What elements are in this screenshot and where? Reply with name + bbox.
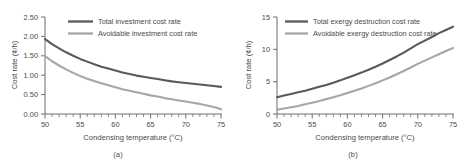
x-tick-label: 55 <box>76 120 84 129</box>
chart-a-legend: Total investment cost rate Avoidable inv… <box>68 17 197 38</box>
y-tick-label: 0.00 <box>24 110 38 119</box>
x-tick-label: 60 <box>111 120 119 129</box>
chart-b-y-ticks <box>273 17 277 114</box>
chart-b-svg: 0 5 10 15 <box>235 0 471 145</box>
y-tick-label: 0 <box>266 110 270 119</box>
x-tick-label: 55 <box>308 120 316 129</box>
chart-b-legend: Total exergy destruction cost rate Avoid… <box>285 17 437 38</box>
chart-a-x-ticks <box>45 114 221 119</box>
chart-b-x-tick-labels: 50 55 60 65 70 75 <box>273 120 457 129</box>
x-axis-title: Condensing temperature (°C) <box>315 133 415 142</box>
x-tick-label: 65 <box>146 120 154 129</box>
x-tick-label: 60 <box>343 120 351 129</box>
x-tick-label: 50 <box>41 120 49 129</box>
legend-label-avoidable-exergy-destruction-cost-rate: Avoidable exergy destruction cost rate <box>313 29 437 38</box>
x-tick-label: 65 <box>378 120 386 129</box>
chart-panel-a: 0.00 0.50 1.00 1.50 2.00 2.50 <box>0 0 236 162</box>
legend-label-total-investment-cost-rate: Total investment cost rate <box>98 17 181 26</box>
x-tick-label: 70 <box>414 120 422 129</box>
y-tick-label: 2.00 <box>24 32 38 41</box>
legend-label-total-exergy-destruction-cost-rate: Total exergy destruction cost rate <box>313 17 420 26</box>
chart-a-y-tick-labels: 0.00 0.50 1.00 1.50 2.00 2.50 <box>24 13 38 119</box>
y-axis-title: Cost rate (¢/h) <box>244 40 253 89</box>
chart-a-x-tick-labels: 50 55 60 65 70 75 <box>41 120 225 129</box>
x-axis-title: Condensing temperature (°C) <box>83 133 183 142</box>
y-tick-label: 1.00 <box>24 71 38 80</box>
chart-a-y-ticks <box>41 17 45 114</box>
chart-panel-b: 0 5 10 15 <box>235 0 471 162</box>
y-axis-title: Cost rate (¢/h) <box>10 40 19 89</box>
panel-caption-b: (b) <box>235 150 471 159</box>
x-tick-label: 70 <box>182 120 190 129</box>
chart-b-y-tick-labels: 0 5 10 15 <box>262 13 270 119</box>
x-tick-label: 75 <box>449 120 457 129</box>
series-line-total-investment-cost-rate <box>45 39 221 87</box>
chart-b-series <box>277 27 453 110</box>
y-tick-label: 0.50 <box>24 90 38 99</box>
panel-caption-a: (a) <box>0 150 236 159</box>
chart-a-svg: 0.00 0.50 1.00 1.50 2.00 2.50 <box>0 0 236 145</box>
x-tick-label: 50 <box>273 120 281 129</box>
y-tick-label: 10 <box>262 45 270 54</box>
chart-a-series <box>45 39 221 109</box>
y-tick-label: 5 <box>266 77 270 86</box>
y-tick-label: 2.50 <box>24 13 38 22</box>
legend-label-avoidable-investment-cost-rate: Avoidable investment cost rate <box>98 29 197 38</box>
chart-b-x-ticks <box>277 114 453 119</box>
x-tick-label: 75 <box>217 120 225 129</box>
y-tick-label: 15 <box>262 13 270 22</box>
series-line-avoidable-investment-cost-rate <box>45 56 221 109</box>
series-line-avoidable-exergy-destruction-cost-rate <box>277 48 453 110</box>
figure-container: 0.00 0.50 1.00 1.50 2.00 2.50 <box>0 0 471 162</box>
y-tick-label: 1.50 <box>24 51 38 60</box>
